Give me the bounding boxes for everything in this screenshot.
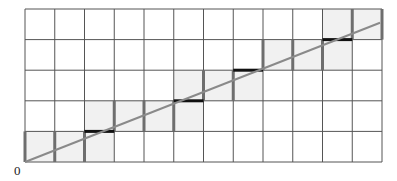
shaded-cell [85, 101, 115, 132]
shaded-cell [174, 70, 204, 101]
shaded-cell [174, 101, 204, 132]
shaded-cell [25, 131, 55, 162]
shaded-cell [55, 131, 85, 162]
origin-label: 0 [14, 163, 21, 178]
grid-diagram: 0 [0, 0, 397, 181]
diagonal-line [25, 23, 380, 162]
shaded-cell [263, 40, 293, 71]
